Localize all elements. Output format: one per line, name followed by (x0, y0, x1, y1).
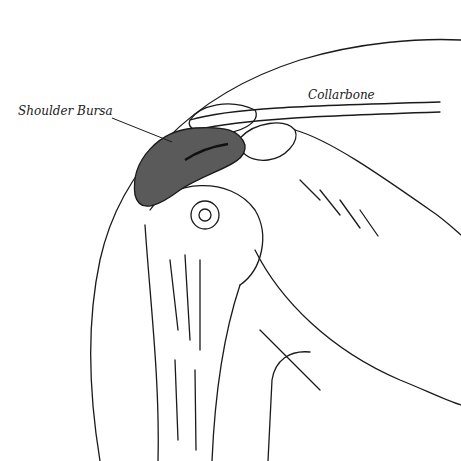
shoulder-illustration (0, 0, 461, 461)
humeral-tuberosity (191, 201, 219, 229)
bursa-leader-line (112, 118, 172, 142)
humerus-shaft (145, 225, 158, 461)
coracoid (239, 123, 296, 160)
bursa-label: Shoulder Bursa (18, 104, 113, 118)
scapula (295, 130, 461, 235)
collarbone-label: Collarbone (308, 88, 375, 102)
shoulder-bursa-shape (134, 128, 245, 207)
anatomy-diagram: Shoulder Bursa Collarbone (0, 0, 461, 461)
